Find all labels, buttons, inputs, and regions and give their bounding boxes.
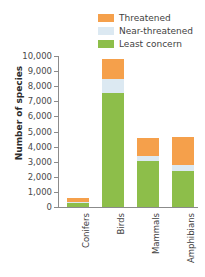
legend-label-least-concern: Least concern	[119, 39, 182, 49]
legend-item-near-threatened: Near-threatened	[98, 25, 193, 36]
y-tick-mark	[54, 162, 58, 163]
bar-conifers	[67, 198, 89, 207]
y-tick-label: 3,000	[28, 157, 52, 166]
y-tick-mark	[54, 56, 58, 57]
y-tick-label: 4,000	[28, 142, 52, 151]
legend-swatch-least-concern	[98, 40, 114, 48]
y-tick-mark	[54, 71, 58, 72]
y-tick-mark	[54, 86, 58, 87]
y-tick-label: 6,000	[28, 112, 52, 121]
bar-segment-threatened	[172, 137, 194, 166]
bar-segment-least-concern	[102, 93, 124, 207]
bar-birds	[102, 59, 124, 207]
legend-item-least-concern: Least concern	[98, 38, 193, 49]
x-axis-label-mammals: Mammals	[152, 213, 161, 254]
legend-label-near-threatened: Near-threatened	[119, 26, 193, 36]
y-tick-mark	[54, 177, 58, 178]
y-tick-label: 0	[47, 203, 52, 212]
bar-segment-threatened	[137, 138, 159, 156]
x-axis-label-conifers: Conifers	[82, 213, 91, 248]
y-tick-mark	[54, 192, 58, 193]
y-axis-line	[58, 56, 59, 207]
legend-swatch-near-threatened	[98, 27, 114, 35]
y-tick-mark	[54, 147, 58, 148]
y-tick-mark	[54, 116, 58, 117]
bar-segment-least-concern	[137, 161, 159, 207]
bar-segment-least-concern	[67, 203, 89, 207]
y-tick-label: 1,000	[28, 187, 52, 196]
bar-segment-near-threatened	[102, 79, 124, 93]
bar-mammals	[137, 138, 159, 207]
bar-segment-threatened	[102, 59, 124, 79]
legend-item-threatened: Threatened	[98, 12, 193, 23]
plot-area: 10,0009,0008,0007,0006,0005,0004,0003,00…	[58, 56, 198, 207]
y-axis-title: Number of species	[14, 63, 24, 163]
y-tick-mark	[54, 101, 58, 102]
legend-label-threatened: Threatened	[119, 13, 171, 23]
y-tick-label: 7,000	[28, 97, 52, 106]
y-tick-label: 5,000	[28, 127, 52, 136]
y-tick-label: 9,000	[28, 67, 52, 76]
x-axis-line	[58, 207, 198, 208]
x-axis-label-birds: Birds	[117, 213, 126, 234]
y-tick-mark	[54, 132, 58, 133]
chart-legend: Threatened Near-threatened Least concern	[98, 12, 193, 49]
x-axis-label-amphibians: Amphibians	[187, 213, 196, 263]
bar-amphibians	[172, 137, 194, 207]
y-tick-label: 8,000	[28, 82, 52, 91]
y-tick-label: 10,000	[22, 52, 52, 61]
species-conservation-status-chart: Threatened Near-threatened Least concern…	[0, 0, 205, 277]
bar-segment-least-concern	[172, 171, 194, 207]
y-tick-mark	[54, 207, 58, 208]
legend-swatch-threatened	[98, 14, 114, 22]
y-tick-label: 2,000	[28, 172, 52, 181]
